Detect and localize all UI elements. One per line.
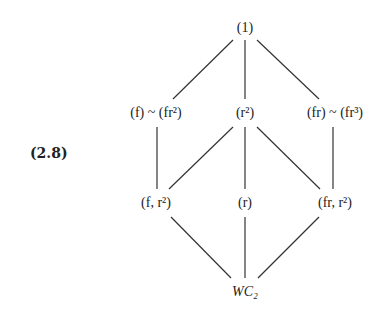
node-f-r2-pair: (f, r²) <box>141 195 171 211</box>
node-f-fr2: (f) ~ (fr²) <box>130 105 181 121</box>
node-fr-r2-pair: (fr, r²) <box>318 195 352 211</box>
node-wc2: WC₂ <box>232 284 258 300</box>
equation-number: (2.8) <box>30 145 68 161</box>
edge-frr2-wc2 <box>258 217 319 278</box>
node-fr-fr3: (fr) ~ (fr³) <box>307 105 363 121</box>
edge-r2-frr2 <box>257 127 320 189</box>
node-r2: (r²) <box>236 105 254 121</box>
node-r: (r) <box>238 195 252 211</box>
edge-top-fr <box>257 40 319 99</box>
edge-fr2-wc2 <box>171 217 231 278</box>
edge-top-f <box>173 40 233 99</box>
edge-r2-fr2 <box>169 127 233 189</box>
node-trivial: (1) <box>237 20 253 36</box>
